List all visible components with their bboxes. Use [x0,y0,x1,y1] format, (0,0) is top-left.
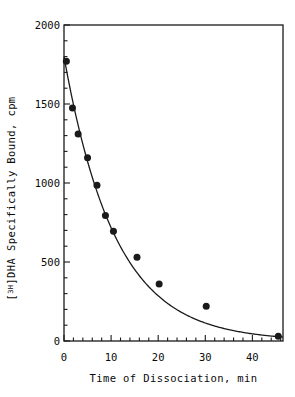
data-points [63,58,282,340]
data-point [275,333,282,340]
data-point [63,58,70,65]
plot-area [0,0,295,397]
x-axis-tick-label: 40 [237,352,267,363]
data-point [93,182,100,189]
data-point [75,131,82,138]
x-axis-tick-label: 30 [190,352,220,363]
x-axis-tick-label: 0 [49,352,79,363]
data-point [203,303,210,310]
figure-panel: [3H]DHA Specifically Bound, cpm 05001000… [0,0,295,397]
x-axis-tick-label: 10 [96,352,126,363]
x-axis-tick-labels: 010203040 [0,352,295,368]
fit-curve [64,57,283,337]
data-point [102,212,109,219]
data-point [156,281,163,288]
data-point [110,228,117,235]
data-point [84,154,91,161]
data-point [69,104,76,111]
x-axis-tick-label: 20 [143,352,173,363]
x-axis-title: Time of Dissociation, min [64,372,283,384]
data-point [134,254,141,261]
